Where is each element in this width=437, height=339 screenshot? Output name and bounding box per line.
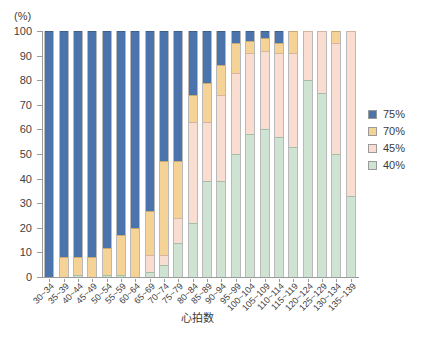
y-axis-unit-label: (%) <box>14 10 31 22</box>
bar-segment-40pct <box>303 80 313 277</box>
y-axis-tick-label: 70 <box>4 99 32 111</box>
stacked-bar[interactable] <box>288 31 298 277</box>
bar-segment-75pct <box>159 31 169 161</box>
legend-label: 40% <box>383 159 405 171</box>
bar-slot <box>143 31 157 277</box>
legend-swatch-icon <box>368 161 377 170</box>
stacked-bar[interactable] <box>73 31 83 277</box>
stacked-bar[interactable] <box>116 31 126 277</box>
bar-slot <box>85 31 99 277</box>
bar-segment-45pct <box>331 43 341 154</box>
bar-segment-70pct <box>274 43 284 53</box>
bar-slot <box>171 31 185 277</box>
legend-swatch-icon <box>368 144 377 153</box>
bar-segment-70pct <box>331 31 341 43</box>
bar-slot <box>99 31 113 277</box>
bar-segment-75pct <box>130 31 140 228</box>
bar-segment-45pct <box>188 122 198 223</box>
bar-segment-75pct <box>260 31 270 38</box>
legend-label: 70% <box>383 125 405 137</box>
stacked-bar[interactable] <box>317 31 327 277</box>
bar-segment-75pct <box>102 31 112 247</box>
bar-segment-75pct <box>59 31 69 257</box>
bar-segment-70pct <box>159 161 169 254</box>
bar-segment-40pct <box>346 196 356 277</box>
bar-segment-45pct <box>202 122 212 181</box>
bar-segment-75pct <box>274 31 284 43</box>
stacked-bar[interactable] <box>87 31 97 277</box>
bar-segment-40pct <box>145 272 155 277</box>
bar-segment-75pct <box>231 31 241 43</box>
stacked-bar[interactable] <box>130 31 140 277</box>
stacked-bar[interactable] <box>346 31 356 277</box>
x-axis-line <box>42 277 359 278</box>
legend-swatch-icon <box>368 127 377 136</box>
x-axis-title: 心拍数 <box>0 309 437 325</box>
stacked-bar[interactable] <box>303 31 313 277</box>
bar-slot <box>229 31 243 277</box>
bar-segment-45pct <box>173 218 183 243</box>
bar-segment-45pct <box>274 53 284 137</box>
bar-slot <box>214 31 228 277</box>
y-axis-tick-label: 0 <box>4 271 32 283</box>
bar-segment-70pct <box>245 41 255 53</box>
bar-slot <box>315 31 329 277</box>
bar-segment-75pct <box>44 31 54 277</box>
bar-segment-40pct <box>73 275 83 277</box>
stacked-bar[interactable] <box>44 31 54 277</box>
bar-segment-70pct <box>288 31 298 53</box>
legend-item[interactable]: 40% <box>368 159 405 171</box>
plot-area <box>42 31 358 277</box>
bar-segment-70pct <box>145 211 155 255</box>
bar-slot <box>272 31 286 277</box>
stacked-bar[interactable] <box>245 31 255 277</box>
bar-segment-75pct <box>73 31 83 257</box>
stacked-bar[interactable] <box>159 31 169 277</box>
bar-segment-75pct <box>216 31 226 65</box>
bar-segment-70pct <box>260 38 270 50</box>
bar-segment-40pct <box>274 137 284 277</box>
stacked-bar[interactable] <box>188 31 198 277</box>
x-axis-title-text: 心拍数 <box>181 309 214 325</box>
stacked-bar[interactable] <box>102 31 112 277</box>
y-axis-tick-label: 40 <box>4 173 32 185</box>
bar-segment-75pct <box>116 31 126 235</box>
y-axis-tick-label: 60 <box>4 123 32 135</box>
legend-label: 75% <box>383 108 405 120</box>
bar-slot <box>300 31 314 277</box>
bar-segment-70pct <box>73 257 83 274</box>
bar-segment-40pct <box>260 129 270 277</box>
bar-segment-75pct <box>145 31 155 211</box>
bar-slot <box>42 31 56 277</box>
stacked-bar[interactable] <box>331 31 341 277</box>
bar-slot <box>286 31 300 277</box>
stacked-bar[interactable] <box>145 31 155 277</box>
bar-segment-40pct <box>159 265 169 277</box>
stacked-bar[interactable] <box>260 31 270 277</box>
bar-segment-40pct <box>288 147 298 277</box>
stacked-bar[interactable] <box>59 31 69 277</box>
bar-segment-40pct <box>317 93 327 278</box>
stacked-bar[interactable] <box>231 31 241 277</box>
legend-item[interactable]: 45% <box>368 142 405 154</box>
bar-slot <box>56 31 70 277</box>
bar-segment-70pct <box>116 235 126 274</box>
bar-segment-40pct <box>331 154 341 277</box>
stacked-bar[interactable] <box>202 31 212 277</box>
stacked-bar[interactable] <box>173 31 183 277</box>
bar-segment-40pct <box>116 275 126 277</box>
legend-item[interactable]: 75% <box>368 108 405 120</box>
bar-segment-40pct <box>231 154 241 277</box>
bar-segment-45pct <box>216 95 226 181</box>
legend-item[interactable]: 70% <box>368 125 405 137</box>
y-axis-tick <box>37 277 42 278</box>
bar-segment-45pct <box>346 31 356 196</box>
bar-slot <box>257 31 271 277</box>
bar-segment-45pct <box>260 51 270 130</box>
bar-segment-70pct <box>202 83 212 122</box>
y-axis-tick-label: 30 <box>4 197 32 209</box>
stacked-bar[interactable] <box>274 31 284 277</box>
stacked-bar[interactable] <box>216 31 226 277</box>
chart-legend: 75%70%45%40% <box>368 108 405 176</box>
bar-segment-45pct <box>159 255 169 265</box>
